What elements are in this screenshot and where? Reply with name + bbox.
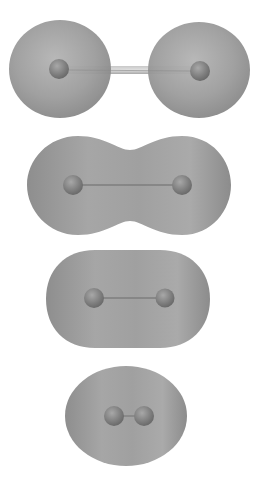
atom-left [84,288,104,308]
panel-separated [9,20,250,118]
molecule-figure [0,0,264,489]
density-capsule [46,250,210,348]
panel-merging [27,136,231,235]
atom-left [63,175,83,195]
panel-capsule [46,250,210,348]
atom-left [49,59,69,79]
panel-compact [65,366,187,466]
atom-right [190,61,210,81]
atom-left [104,406,124,426]
atom-right [156,289,175,308]
atom-right [134,406,154,426]
atom-right [172,175,192,195]
